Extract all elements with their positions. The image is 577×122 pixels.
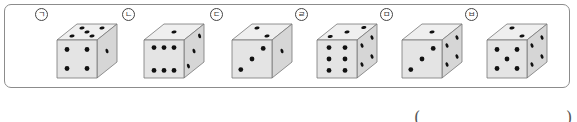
pip [85, 47, 90, 52]
pip [327, 45, 332, 50]
pip [65, 47, 70, 52]
pip [343, 57, 348, 62]
die-icon [220, 10, 300, 82]
pip [495, 47, 500, 52]
die-option-1[interactable]: ㄱ [35, 8, 115, 80]
pip [343, 68, 348, 73]
pip [515, 66, 520, 71]
pip [162, 45, 167, 50]
pip [327, 68, 332, 73]
die-front-face [57, 40, 97, 78]
pip [327, 57, 332, 62]
pip [261, 46, 266, 51]
pip [515, 47, 520, 52]
pip [495, 66, 500, 71]
die-icon [132, 10, 212, 82]
pip [505, 57, 510, 62]
die-option-2[interactable]: ㄴ [122, 8, 202, 80]
die-option-3[interactable]: ㄷ [210, 8, 290, 80]
die-option-5[interactable]: ㅁ [380, 8, 460, 80]
pip [420, 57, 425, 62]
die-icon [390, 10, 470, 82]
pip [408, 67, 413, 72]
pip [172, 45, 177, 50]
pip [162, 68, 167, 73]
pip [152, 68, 157, 73]
pip [65, 66, 70, 71]
die-option-6[interactable]: ㅂ [465, 8, 545, 80]
pip [152, 45, 157, 50]
pip [250, 57, 255, 62]
die-icon [475, 10, 555, 82]
pip [431, 46, 436, 51]
die-front-face [317, 40, 357, 78]
answer-blank[interactable] [425, 108, 565, 122]
answer-close-paren: ) [566, 108, 572, 122]
pip [343, 45, 348, 50]
die-option-4[interactable]: ㄹ [295, 8, 375, 80]
pip [238, 67, 243, 72]
pip [172, 68, 177, 73]
answer-open-paren: ( [414, 108, 420, 122]
die-icon [305, 10, 385, 82]
pip [85, 66, 90, 71]
die-icon [45, 10, 125, 82]
